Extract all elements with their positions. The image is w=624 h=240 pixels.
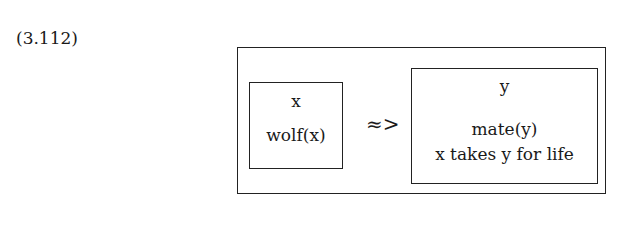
equation-number: (3.112) (16, 28, 78, 48)
outer-drs-box: x wolf(x) ≈> y mate(y) x takes y for lif… (237, 47, 606, 194)
generic-conditional-arrow: ≈> (366, 112, 400, 136)
consequent-drs-box: y mate(y) x takes y for life (411, 68, 598, 184)
antecedent-referents: x (250, 93, 342, 110)
consequent-condition: mate(y) (412, 121, 597, 138)
consequent-referents: y (412, 78, 597, 95)
antecedent-condition: wolf(x) (250, 127, 342, 144)
consequent-condition: x takes y for life (412, 146, 597, 163)
antecedent-drs-box: x wolf(x) (249, 82, 343, 169)
